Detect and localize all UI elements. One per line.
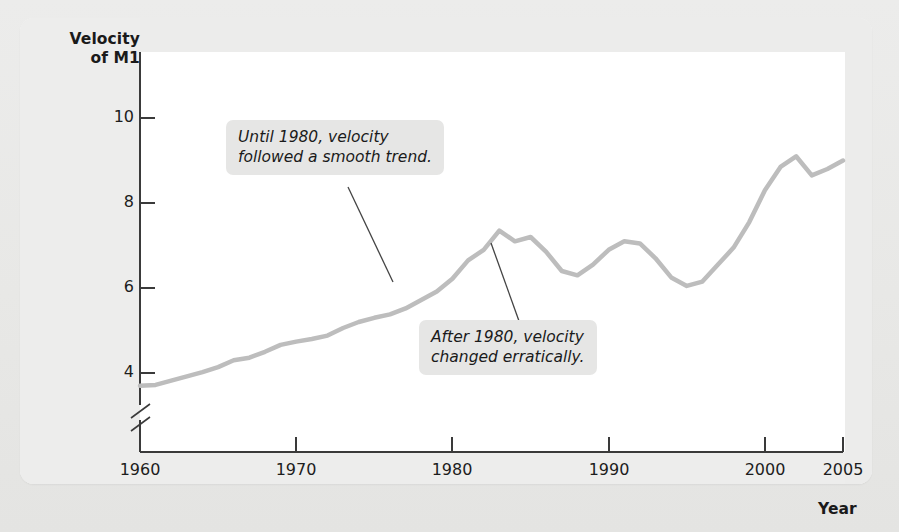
x-tick-label-1980: 1980 — [422, 460, 482, 479]
annotation-after-1980: After 1980, velocity changed erratically… — [419, 320, 597, 375]
y-tick-label-10: 10 — [100, 107, 134, 126]
y-axis-title: Velocity of M1 — [60, 30, 140, 68]
x-tick-label-2005: 2005 — [813, 460, 873, 479]
y-axis-ticks — [140, 118, 155, 373]
leader-line-after-1980 — [491, 243, 519, 321]
y-tick-label-6: 6 — [100, 277, 134, 296]
leader-line-until-1980 — [348, 187, 393, 282]
y-axis-title-line1: Velocity — [60, 30, 140, 49]
axis-lines — [140, 52, 843, 452]
x-tick-label-1990: 1990 — [579, 460, 639, 479]
x-axis-title: Year — [818, 500, 857, 519]
chart-svg — [0, 0, 899, 532]
x-tick-label-1960: 1960 — [110, 460, 170, 479]
x-tick-label-2000: 2000 — [735, 460, 795, 479]
velocity-of-m1-figure: Velocity of M1 10 8 6 4 1960 1970 1980 1… — [0, 0, 899, 532]
y-tick-label-4: 4 — [100, 362, 134, 381]
y-tick-label-8: 8 — [100, 192, 134, 211]
callout-leader-lines — [348, 187, 519, 321]
x-axis-ticks — [140, 437, 843, 452]
x-tick-label-1970: 1970 — [266, 460, 326, 479]
y-axis-title-line2: of M1 — [60, 49, 140, 68]
annotation-until-1980: Until 1980, velocity followed a smooth t… — [226, 120, 444, 175]
